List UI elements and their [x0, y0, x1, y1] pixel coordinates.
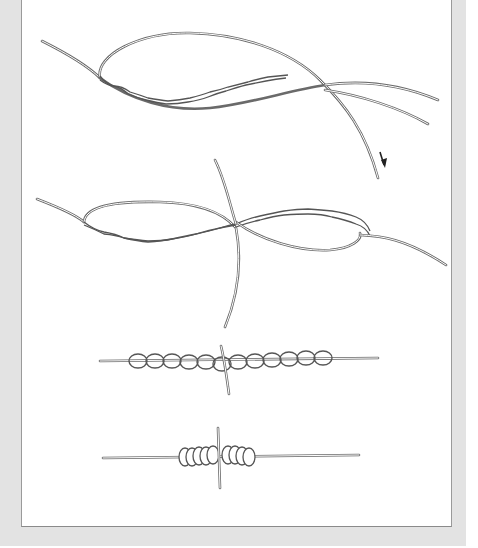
step-2-tuck-ends	[37, 160, 446, 327]
step-1-overlap-and-twist	[42, 33, 438, 178]
step-4-tightened-knot	[103, 428, 359, 488]
step-3-loose-wraps	[100, 346, 378, 394]
knot-diagram	[0, 0, 478, 548]
